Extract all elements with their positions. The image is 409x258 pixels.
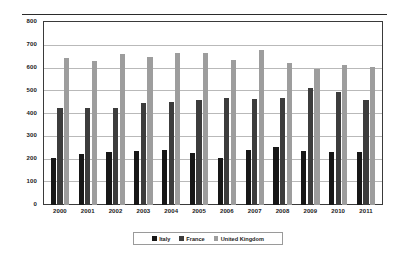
legend-label: Italy [159, 236, 170, 242]
scan-noise-band [0, 0, 409, 12]
x-axis-tick-label-2005: 2005 [185, 208, 213, 214]
x-axis-tick-label-2004: 2004 [157, 208, 185, 214]
y-axis-tick-label: 700 [26, 41, 37, 47]
bar-uk-2010 [342, 65, 347, 205]
bar-group-2001 [74, 22, 102, 205]
bar-italy-2011 [357, 152, 362, 205]
bar-france-2011 [363, 100, 368, 205]
bar-uk-2009 [314, 69, 319, 205]
bar-group-2002 [102, 22, 130, 205]
chart-legend: ItalyFranceUnited Kingdom [133, 232, 283, 245]
legend-item-france[interactable]: France [179, 236, 204, 242]
bar-italy-2001 [79, 154, 84, 205]
bar-italy-2009 [301, 151, 306, 205]
bar-group-2004 [157, 22, 185, 205]
bar-italy-2006 [218, 158, 223, 205]
legend-item-uk[interactable]: United Kingdom [214, 236, 264, 242]
x-axis-tick-label-2008: 2008 [269, 208, 297, 214]
legend-swatch-icon [179, 236, 184, 241]
legend-swatch-icon [152, 236, 157, 241]
bar-france-2010 [336, 92, 341, 205]
x-axis-labels: 2000200120022003200420052006200720082009… [44, 208, 382, 214]
bar-france-2003 [141, 103, 146, 205]
top-horizontal-rule [22, 14, 387, 15]
y-axis-tick-label: 200 [26, 155, 37, 161]
bar-group-2000 [46, 22, 74, 205]
bar-france-2005 [196, 100, 201, 205]
bar-group-2011 [352, 22, 380, 205]
bar-group-2010 [324, 22, 352, 205]
bar-uk-2007 [259, 50, 264, 205]
y-axis-tick-label: 500 [26, 87, 37, 93]
x-axis-tick-label-2003: 2003 [129, 208, 157, 214]
bar-italy-2000 [51, 158, 56, 205]
bar-italy-2005 [190, 153, 195, 205]
bar-italy-2010 [329, 152, 334, 205]
bar-uk-2003 [147, 57, 152, 205]
bar-group-2007 [241, 22, 269, 205]
x-axis-tick-label-2009: 2009 [296, 208, 324, 214]
bar-france-2004 [169, 102, 174, 205]
bar-uk-2000 [64, 58, 69, 205]
x-axis-tick-label-2007: 2007 [241, 208, 269, 214]
bar-france-2009 [308, 88, 313, 205]
bars-container [44, 22, 382, 205]
bar-chart: 8007006005004003002001000 20002001200220… [0, 0, 409, 258]
legend-swatch-icon [214, 236, 219, 241]
y-axis-tick-label: 300 [26, 132, 37, 138]
y-axis-labels: 8007006005004003002001000 [0, 21, 41, 205]
x-axis-tick-label-2011: 2011 [352, 208, 380, 214]
bar-uk-2008 [287, 63, 292, 205]
y-axis-tick-label: 100 [26, 178, 37, 184]
bar-italy-2004 [162, 150, 167, 205]
bar-italy-2008 [273, 147, 278, 205]
y-axis-tick-label: 0 [33, 201, 37, 207]
bar-uk-2001 [92, 61, 97, 205]
bar-group-2006 [213, 22, 241, 205]
legend-item-italy[interactable]: Italy [152, 236, 170, 242]
y-axis-tick-label: 400 [26, 110, 37, 116]
bar-italy-2003 [134, 151, 139, 205]
bar-group-2003 [129, 22, 157, 205]
bar-italy-2002 [106, 152, 111, 205]
bar-france-2007 [252, 99, 257, 205]
bar-france-2001 [85, 108, 90, 205]
y-axis-tick-label: 800 [26, 18, 37, 24]
bar-france-2002 [113, 108, 118, 205]
legend-label: France [186, 236, 204, 242]
x-axis-tick-label-2006: 2006 [213, 208, 241, 214]
legend-label: United Kingdom [221, 236, 264, 242]
bar-uk-2004 [175, 53, 180, 205]
bar-italy-2007 [246, 150, 251, 205]
x-axis-tick-label-2010: 2010 [324, 208, 352, 214]
y-axis-tick-label: 600 [26, 64, 37, 70]
bar-uk-2002 [120, 54, 125, 205]
bar-uk-2005 [203, 53, 208, 205]
x-axis-tick-label-2000: 2000 [46, 208, 74, 214]
bar-group-2009 [296, 22, 324, 205]
x-axis-tick-label-2002: 2002 [102, 208, 130, 214]
bar-uk-2006 [231, 60, 236, 205]
bar-france-2008 [280, 98, 285, 206]
bar-france-2006 [224, 98, 229, 205]
bar-uk-2011 [370, 67, 375, 205]
bar-group-2005 [185, 22, 213, 205]
bar-france-2000 [57, 108, 62, 205]
bar-group-2008 [269, 22, 297, 205]
x-axis-tick-label-2001: 2001 [74, 208, 102, 214]
